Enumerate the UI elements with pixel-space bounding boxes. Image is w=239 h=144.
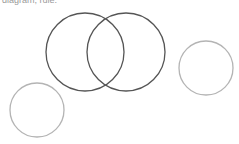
diagram-canvas — [0, 0, 239, 144]
small-left-circle — [10, 83, 64, 137]
venn-right-circle — [87, 13, 165, 91]
venn-left-circle — [46, 13, 124, 91]
small-right-circle — [179, 41, 233, 95]
